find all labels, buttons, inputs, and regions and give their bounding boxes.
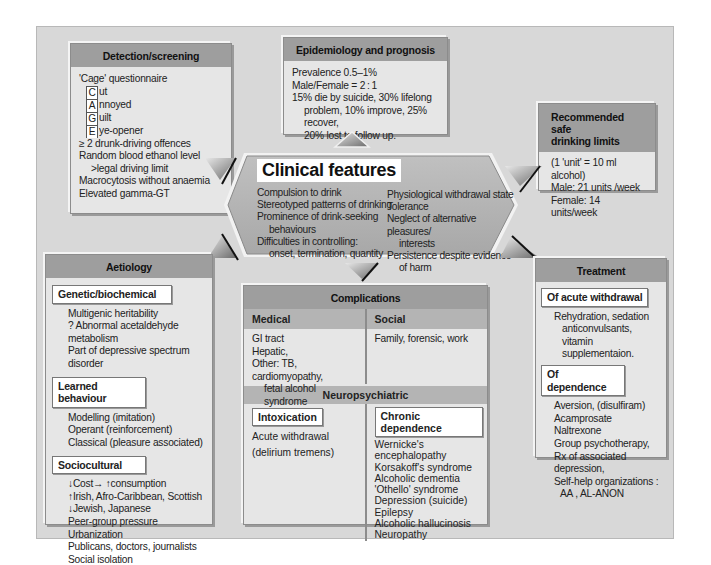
aetiology-box: Aetiology Genetic/biochemical Multigenic… <box>45 254 213 525</box>
arrow-down-icon <box>345 263 378 281</box>
aetiology-genetic-list: Multigenic heritability ? Abnormal aceta… <box>52 308 206 371</box>
aetiology-section-learned: Learned behaviour <box>52 377 146 408</box>
treatment-acute-title: Of acute withdrawal <box>541 288 648 307</box>
arrow-up-icon <box>335 132 369 147</box>
treatment-dependence-title: Of dependence <box>541 365 625 396</box>
arrow-upright-icon <box>505 166 542 192</box>
treatment-dependence-list: Aversion, (disulfiram) Acamprosate Naltr… <box>541 400 661 501</box>
social-column: Social Family, forensic, work <box>367 309 488 384</box>
chronic-dependence-column: Chronic dependence Wernicke's encephalop… <box>367 404 488 541</box>
medical-column: Medical GI tract Hepatic, Other: TB, car… <box>244 309 367 384</box>
aetiology-section-sociocultural: Sociocultural <box>52 456 146 475</box>
arrow-lowerright-icon <box>500 236 540 262</box>
aetiology-title: Aetiology <box>46 255 212 278</box>
complications-box: Complications Medical GI tract Hepatic, … <box>243 285 488 525</box>
aetiology-learned-list: Modelling (imitation) Operant (reinforce… <box>52 412 206 450</box>
complications-title: Complications <box>244 286 487 309</box>
treatment-box: Treatment Of acute withdrawal Rehydratio… <box>535 258 667 458</box>
intoxication-column: Intoxication Acute withdrawal (delirium … <box>244 404 367 541</box>
arrow-upleft-icon <box>205 158 236 184</box>
treatment-title: Treatment <box>536 259 666 282</box>
aetiology-sociocultural-list: ↓Cost→ ↑consumption ↑Irish, Afro-Caribbe… <box>52 478 206 565</box>
aetiology-section-genetic: Genetic/biochemical <box>52 285 172 304</box>
treatment-acute-list: Rehydration, sedation anticonvulsants, v… <box>541 311 661 361</box>
